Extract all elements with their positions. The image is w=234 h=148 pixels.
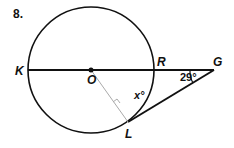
label-o: O: [87, 73, 97, 87]
geometry-diagram: 8. K O R G L 29° x°: [0, 0, 234, 148]
label-g: G: [213, 55, 222, 69]
angle-x-label: x°: [133, 89, 145, 101]
label-r: R: [157, 55, 166, 69]
angle-g-label: 29°: [180, 71, 197, 83]
label-k: K: [15, 64, 25, 78]
problem-number: 8.: [13, 7, 23, 21]
center-point-o: [89, 68, 94, 73]
label-l: L: [125, 127, 132, 141]
radius-ol: [91, 70, 128, 122]
